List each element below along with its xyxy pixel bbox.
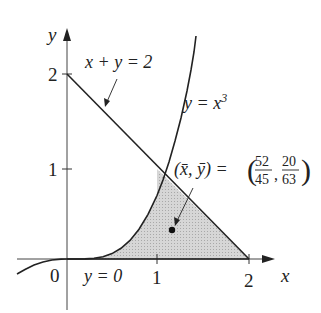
frac2-numerator: 20 bbox=[282, 154, 296, 169]
frac1-denominator: 45 bbox=[255, 172, 269, 187]
close-paren: ) bbox=[301, 153, 311, 187]
axis-equation-label: y = 0 bbox=[82, 266, 122, 286]
y-axis-label: y bbox=[46, 24, 57, 45]
comma: , bbox=[274, 166, 278, 183]
centroid-diagram: y x 2 1 0 1 2 x + y = 2 y = x3 y = 0 (x̄… bbox=[0, 0, 321, 313]
x-axis-label: x bbox=[280, 265, 290, 286]
y-tick-label-2: 2 bbox=[48, 64, 58, 85]
origin-label: 0 bbox=[50, 265, 60, 286]
line-label-arrow-icon bbox=[104, 98, 110, 107]
centroid-label: (x̄, ȳ) = ( 52 45 , 20 63 ) bbox=[174, 153, 311, 187]
y-axis-arrow-icon bbox=[63, 28, 71, 41]
frac1-numerator: 52 bbox=[255, 154, 269, 169]
y-tick-label-1: 1 bbox=[48, 159, 58, 180]
line-equation-label: x + y = 2 bbox=[84, 52, 152, 72]
frac2-denominator: 63 bbox=[282, 172, 296, 187]
curve-equation-label: y = x3 bbox=[182, 91, 227, 113]
x-tick-label-2: 2 bbox=[244, 270, 254, 291]
centroid-point bbox=[169, 227, 175, 233]
plot-canvas: y x 2 1 0 1 2 x + y = 2 y = x3 y = 0 (x̄… bbox=[0, 0, 321, 313]
x-axis-arrow-icon bbox=[262, 255, 275, 263]
centroid-lhs: (x̄, ȳ) = bbox=[174, 159, 228, 180]
shaded-region bbox=[67, 169, 249, 259]
x-tick-label-1: 1 bbox=[152, 267, 162, 288]
